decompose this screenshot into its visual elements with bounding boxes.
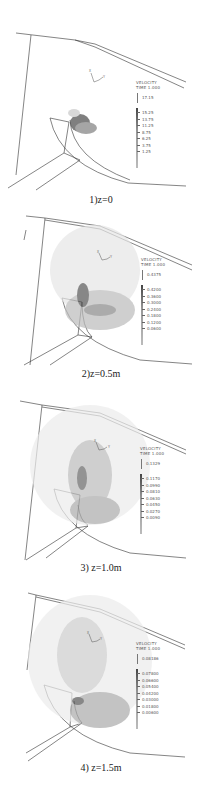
axis-y-label: Y (100, 637, 102, 641)
panel-z1-0: X Y VELOCITY TIME 1.000 0.1329 0.1170 0.… (0, 395, 202, 585)
velocity-legend: VELOCITY TIME 1.000 17.15 15.25 13.75 11… (136, 80, 160, 156)
axis-y-label: Y (103, 75, 105, 79)
velocity-field-plot: X Y (0, 0, 202, 200)
axis-x-label: X (87, 631, 89, 635)
legend-reference-vector: 0.1329 (140, 461, 164, 466)
panel-z0-5: X Y VELOCITY TIME 1.000 0.4375 0.4200 0.… (0, 210, 202, 390)
axis-triad-icon (91, 73, 103, 82)
velocity-field-plot: X Y (0, 395, 202, 585)
velocity-legend: VELOCITY TIME 1.000 0.1329 0.1170 0.0990… (140, 446, 164, 522)
velocity-legend: VELOCITY TIME 1.000 0.08186 0.07800 0.06… (136, 641, 160, 717)
legend-reference-vector: 0.08186 (136, 656, 160, 661)
legend-scale: 0.4200 0.3600 0.3000 0.2400 0.1800 0.120… (141, 287, 165, 333)
velocity-vector-cluster (30, 405, 150, 525)
panel-caption: 3) z=1.0m (0, 562, 202, 573)
velocity-field-plot: X Y (0, 585, 202, 791)
legend-reference-vector: 0.4375 (141, 272, 165, 277)
legend-time: TIME 1.000 (140, 451, 164, 456)
panel-z1-5: X Y VELOCITY TIME 1.000 0.08186 0.07800 … (0, 585, 202, 791)
panel-caption: 1)z=0 (0, 194, 202, 205)
legend-time: TIME 1.000 (141, 262, 165, 267)
axis-x-label: X (94, 439, 96, 443)
velocity-legend: VELOCITY TIME 1.000 0.4375 0.4200 0.3600… (141, 257, 165, 333)
legend-scale: 15.25 13.75 11.25 8.75 6.25 3.75 1.25 (136, 110, 160, 156)
legend-tick: 0.0600 (147, 326, 165, 333)
velocity-vector-cluster (28, 595, 152, 728)
legend-tick: 0.0090 (146, 515, 164, 522)
legend-tick: 1.25 (142, 149, 160, 156)
legend-time: TIME 1.000 (136, 85, 160, 90)
legend-scale: 0.1170 0.0990 0.0810 0.0630 0.0450 0.027… (140, 476, 164, 522)
panel-caption: 4) z=1.5m (0, 762, 202, 773)
axis-x-label: X (97, 250, 99, 254)
legend-tick: 0.00600 (142, 710, 160, 717)
legend-scale: 0.07800 0.06600 0.05400 0.04200 0.03000 … (136, 671, 160, 717)
panel-caption: 2)z=0.5m (0, 368, 202, 379)
legend-time: TIME 1.000 (136, 646, 160, 651)
velocity-vector-cluster (50, 225, 140, 330)
legend-reference-vector: 17.15 (136, 95, 160, 100)
axis-y-label: Y (110, 255, 112, 259)
axis-x-label: X (89, 69, 91, 73)
axis-y-label: Y (108, 445, 110, 449)
velocity-vector-cluster (68, 109, 97, 134)
velocity-field-plot: X Y (0, 210, 202, 390)
panel-z0: X Y VELOCITY TIME 1.000 17.15 15.25 13.7… (0, 0, 202, 200)
